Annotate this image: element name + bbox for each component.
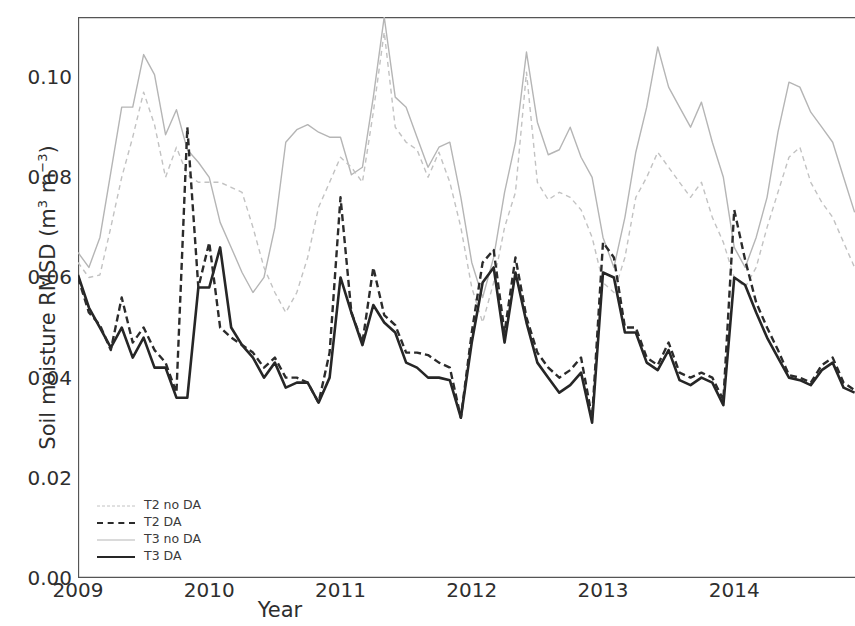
- y-axis-tick-labels: 0.000.020.040.060.080.10: [4, 0, 72, 626]
- y-axis-tick-label: 0.10: [10, 65, 72, 89]
- legend-item-label: T2 no DA: [144, 499, 201, 512]
- legend-line-swatch: [97, 501, 135, 511]
- axis-frame: [79, 18, 855, 579]
- legend-item-label: T2 DA: [144, 516, 182, 529]
- y-axis-tick-label: 0.02: [10, 466, 72, 490]
- y-axis-tick-label: 0.04: [10, 366, 72, 390]
- chart-figure: Soil moisture RMSD (m3 m−3) 0.000.020.04…: [0, 0, 855, 626]
- plot-svg: [78, 17, 855, 578]
- chart-legend: T2 no DAT2 DAT3 no DAT3 DA: [97, 497, 201, 565]
- series-line-t3-da: [78, 247, 855, 422]
- x-axis-title: Year: [0, 598, 560, 622]
- legend-line-glyph: [97, 522, 135, 524]
- legend-line-swatch: [97, 552, 135, 562]
- legend-line-glyph: [97, 539, 135, 540]
- x-axis-tick-label: 2013: [563, 578, 643, 602]
- series-line-t2-da: [78, 127, 855, 418]
- x-axis-tick-label: 2014: [694, 578, 774, 602]
- legend-line-glyph: [97, 505, 135, 506]
- legend-line-swatch: [97, 518, 135, 528]
- legend-item-label: T3 no DA: [144, 533, 201, 546]
- legend-item[interactable]: T2 DA: [97, 514, 201, 531]
- y-axis-tick-label: 0.08: [10, 165, 72, 189]
- legend-item[interactable]: T2 no DA: [97, 497, 201, 514]
- y-axis-tick-label: 0.06: [10, 265, 72, 289]
- legend-item[interactable]: T3 no DA: [97, 531, 201, 548]
- plot-area: [78, 17, 855, 578]
- legend-item[interactable]: T3 DA: [97, 548, 201, 565]
- legend-line-glyph: [97, 556, 135, 558]
- legend-item-label: T3 DA: [144, 550, 182, 563]
- legend-line-swatch: [97, 535, 135, 545]
